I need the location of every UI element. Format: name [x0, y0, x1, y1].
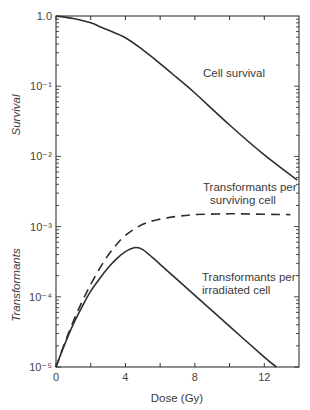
annotation-irradiated-line1: Transformants per [202, 271, 296, 283]
y-tick-label: 10⁻⁵ [29, 361, 52, 373]
y-axis-title-survival: Survival [10, 94, 22, 135]
y-tick-label: 10⁻² [30, 150, 52, 162]
y-tick-label: 1.0 [37, 10, 52, 22]
annotation-irradiated-line2: irradiated cell [202, 284, 270, 296]
curve-cell-survival [56, 16, 297, 180]
x-tick-label: 8 [192, 371, 198, 383]
annotation-surviving-line2: surviving cell [210, 194, 276, 206]
y-tick-label: 10⁻³ [30, 221, 52, 233]
y-axis-title-transformants: Transformants [10, 248, 22, 322]
x-tick-label: 0 [53, 371, 59, 383]
y-tick-label: 10⁻⁴ [29, 291, 52, 303]
annotation-cell-survival: Cell survival [203, 67, 265, 79]
annotation-surviving-line1: Transformants per [203, 181, 297, 193]
x-tick-label: 4 [122, 371, 128, 383]
x-tick-label: 12 [258, 371, 270, 383]
x-axis-title: Dose (Gy) [151, 392, 204, 404]
dose-response-chart: 048121.010⁻¹10⁻²10⁻³10⁻⁴10⁻⁵ Dose (Gy) S… [0, 0, 310, 410]
curve-transformants-per-irradiated-cell [56, 247, 276, 367]
y-tick-label: 10⁻¹ [30, 80, 52, 92]
